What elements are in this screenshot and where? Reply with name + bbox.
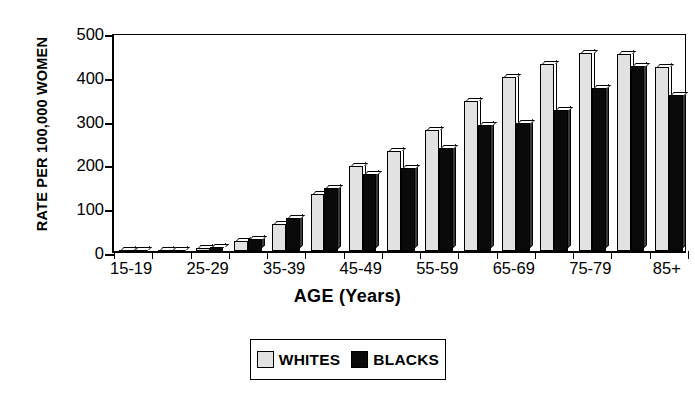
y-axis-tick-label: 300	[76, 113, 104, 130]
x-axis-tick	[420, 251, 421, 259]
bar-side	[415, 164, 418, 248]
bar-face	[669, 95, 683, 251]
y-axis-tick-label: 400	[76, 70, 104, 87]
bar-side	[606, 84, 609, 248]
x-axis-tick	[573, 251, 574, 259]
bar-blacks	[401, 168, 415, 251]
bar-top-cap	[326, 185, 343, 188]
bar-group	[191, 35, 229, 251]
bar-face	[234, 241, 248, 251]
bar-side	[683, 91, 686, 248]
bar-blacks	[478, 125, 492, 251]
bar-blacks	[286, 218, 300, 251]
bar-face	[502, 77, 516, 251]
bar-face	[655, 67, 669, 251]
bar-blacks	[171, 250, 185, 252]
bar-group	[152, 35, 190, 251]
x-axis-tick-label: 25-29	[187, 259, 229, 278]
y-axis-tick-label: 0	[95, 245, 104, 262]
bar-whites	[655, 67, 669, 251]
x-axis-tick	[229, 251, 230, 259]
bar-face	[617, 54, 631, 251]
bar-side	[530, 119, 533, 248]
bar-top-cap	[480, 122, 497, 125]
bar-side	[376, 170, 379, 248]
bar-face	[540, 64, 554, 251]
y-axis-tick-label: 200	[76, 157, 104, 174]
bar-face	[401, 168, 415, 251]
bar-face	[196, 248, 210, 252]
x-axis-tick-label: 85+	[653, 259, 681, 278]
x-axis-tick-label: 35-39	[263, 259, 305, 278]
x-axis-tick-label: 65-69	[493, 259, 535, 278]
x-axis-tick	[267, 251, 268, 259]
bar-whites	[196, 248, 210, 252]
bar-side	[491, 121, 494, 248]
y-axis-tick	[105, 79, 114, 81]
y-axis-tick-label: 500	[76, 26, 104, 43]
x-axis-tick-labels: 15-1925-2935-3945-4955-5965-6975-7985+	[112, 259, 686, 283]
bar-blacks	[248, 239, 262, 251]
chart-legend: WHITES BLACKS	[250, 339, 446, 380]
x-axis-tick	[611, 251, 612, 259]
x-axis-title: AGE (Years)	[0, 286, 695, 307]
x-axis-tick	[535, 251, 536, 259]
bar-face	[272, 224, 286, 251]
bar-face	[592, 88, 606, 251]
bar-blacks	[554, 110, 568, 251]
bar-whites	[311, 194, 325, 251]
bar-face	[516, 123, 530, 251]
bar-whites	[464, 101, 478, 251]
bar-group	[344, 35, 382, 251]
x-axis-tick-label: 75-79	[569, 259, 611, 278]
bar-side	[644, 62, 647, 248]
bar-face	[324, 188, 338, 252]
bar-whites	[234, 241, 248, 251]
x-axis-tick	[344, 251, 345, 259]
bar-blacks	[133, 250, 147, 252]
y-axis-tick	[105, 210, 114, 212]
legend-swatch-blacks-icon	[351, 351, 368, 368]
bar-group	[229, 35, 267, 251]
bar-side	[453, 144, 456, 248]
bar-face	[464, 101, 478, 251]
legend-item-blacks: BLACKS	[351, 351, 439, 369]
y-axis-tick-labels: 0100200300400500	[44, 34, 104, 253]
x-axis-tick	[191, 251, 192, 259]
bar-group	[114, 35, 152, 251]
bar-group	[497, 35, 535, 251]
bar-whites	[617, 54, 631, 251]
x-axis-tick	[114, 251, 115, 259]
x-axis-tick	[305, 251, 306, 259]
y-axis-tick	[105, 123, 114, 125]
bar-face	[210, 247, 224, 251]
legend-label-whites: WHITES	[279, 351, 340, 369]
bar-top-cap	[351, 163, 368, 166]
bar-blacks	[363, 174, 377, 251]
x-axis-tick-label: 45-49	[340, 259, 382, 278]
bar-face	[425, 130, 439, 251]
bar-top-cap	[581, 50, 598, 53]
bar-top-cap	[466, 98, 483, 101]
bar-top-cap	[250, 236, 267, 239]
bar-whites	[502, 77, 516, 251]
bar-top-cap	[518, 120, 535, 123]
bar-group	[535, 35, 573, 251]
x-axis-tick-label: 15-19	[110, 259, 152, 278]
x-axis-tick	[650, 251, 651, 259]
bar-top-cap	[212, 244, 229, 247]
bar-face	[248, 239, 262, 251]
bar-face	[363, 174, 377, 251]
bar-top-cap	[135, 247, 152, 250]
bar-face	[286, 218, 300, 251]
bar-side	[338, 184, 341, 249]
y-axis-tick-label: 100	[76, 201, 104, 218]
bar-whites	[579, 53, 593, 251]
bar-top-cap	[403, 165, 420, 168]
bar-group	[420, 35, 458, 251]
bar-top-cap	[504, 74, 521, 77]
bar-whites	[540, 64, 554, 251]
bar-group	[382, 35, 420, 251]
y-axis-tick	[105, 35, 114, 37]
bar-side	[300, 214, 303, 248]
